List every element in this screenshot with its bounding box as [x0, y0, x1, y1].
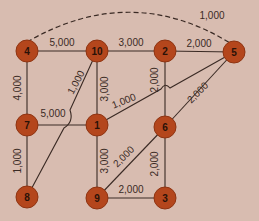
edge-label-4-5: 1,000: [199, 10, 224, 21]
edge-label-1-9: 3,000: [99, 148, 110, 173]
node-2: 2: [154, 40, 176, 62]
node-3: 3: [154, 187, 176, 209]
node-label: 1: [94, 120, 100, 131]
edge-label-7-8: 1,000: [12, 148, 23, 173]
node-8: 8: [16, 186, 38, 208]
node-9: 9: [86, 187, 108, 209]
edge-label-2-6: 2,000: [149, 67, 160, 92]
edge-label-10-1: 3,000: [99, 76, 110, 101]
node-label: 4: [24, 46, 30, 57]
node-6: 6: [154, 116, 176, 138]
edge-label-7-1: 5,000: [40, 108, 65, 119]
edge-label-4-7: 4,000: [12, 75, 23, 100]
node-label: 9: [94, 193, 100, 204]
node-label: 7: [24, 120, 30, 131]
node-10: 10: [86, 40, 108, 62]
edge-label-9-3: 2,000: [118, 184, 143, 195]
edge-label-10-2: 3,000: [118, 37, 143, 48]
edge-label-2-5: 2,000: [186, 38, 211, 49]
node-label: 10: [91, 46, 103, 57]
network-diagram: 5,0003,0002,0004,0001,0003,0003,0002,000…: [0, 0, 259, 221]
edge-label-4-10: 5,000: [49, 37, 74, 48]
node-label: 8: [24, 192, 30, 203]
node-label: 5: [231, 47, 237, 58]
node-label: 2: [162, 46, 168, 57]
node-7: 7: [16, 114, 38, 136]
edge-label-6-3: 2,000: [149, 151, 160, 176]
node-1: 1: [86, 114, 108, 136]
node-label: 3: [162, 193, 168, 204]
node-label: 6: [162, 122, 168, 133]
node-4: 4: [16, 40, 38, 62]
node-5: 5: [223, 41, 245, 63]
